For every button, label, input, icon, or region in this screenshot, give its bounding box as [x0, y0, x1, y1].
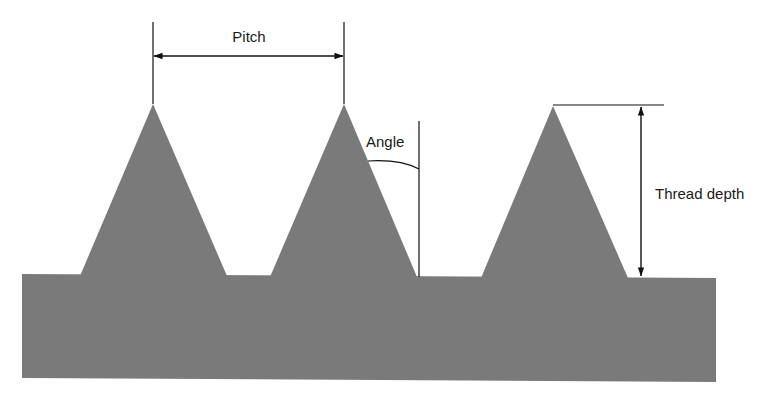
thread-base-body [22, 274, 716, 382]
angle-label: Angle [366, 133, 404, 150]
angle-arc [368, 161, 419, 169]
thread-depth-label: Thread depth [655, 185, 744, 202]
pitch-label: Pitch [232, 28, 265, 45]
thread-tooth-2 [270, 104, 417, 277]
thread-tooth-3 [481, 106, 628, 278]
thread-tooth-1 [80, 104, 227, 276]
thread-diagram: Pitch Angle Thread depth [0, 0, 784, 397]
